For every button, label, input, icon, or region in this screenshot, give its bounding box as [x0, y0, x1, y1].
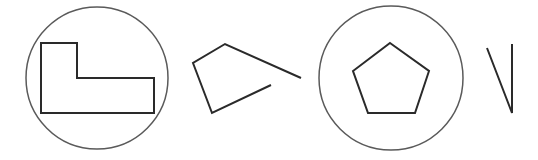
- background: [0, 0, 538, 160]
- diagram-canvas: [0, 0, 538, 160]
